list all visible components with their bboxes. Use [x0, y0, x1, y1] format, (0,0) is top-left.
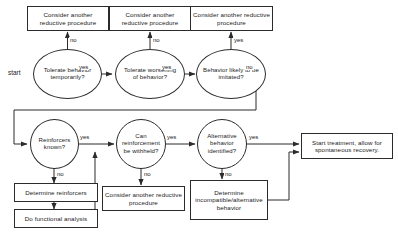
edge-label-imitated-no: no	[245, 64, 254, 70]
node-label: Start treatment, allow for spontaneous r…	[304, 139, 390, 154]
node-consider-another-3: Consider another reductive procedure	[190, 6, 273, 31]
node-consider-another-bottom: Consider another reductive procedure	[102, 186, 185, 211]
node-label: Consider another reductive procedure	[112, 11, 188, 26]
node-reinforcers-known: Reinforcers known?	[30, 119, 79, 169]
edge-label-withhold-no: no	[143, 171, 152, 177]
node-behavior-likely-imitated: Behavior likely to be imitated?	[196, 49, 266, 99]
node-tolerate-behavior-temporarily: Tolerate behavior temporarily?	[33, 49, 102, 99]
node-label: Determine reinforcers	[17, 189, 95, 196]
edge-label-withhold-yes: yes	[166, 134, 177, 140]
edge-label-reinforcers-yes: yes	[79, 134, 90, 140]
node-consider-another-1: Consider another reductive procedure	[27, 6, 109, 31]
node-label: Consider another reductive procedure	[30, 11, 106, 26]
edge-label-alternative-no: no	[224, 171, 233, 177]
node-label: Determine incompatible/alternative behav…	[193, 189, 265, 211]
node-determine-incompatible-alternative-behavior: Determine incompatible/alternative behav…	[190, 180, 268, 220]
node-label: Reinforcers known?	[33, 137, 76, 151]
start-label: start	[8, 70, 20, 76]
node-label: Can reinforcement be withheld?	[118, 133, 164, 154]
node-label: Consider another reductive procedure	[193, 11, 270, 26]
edge-label-worsening-yes: yes	[161, 64, 172, 70]
node-can-reinforcement-be-withheld: Can reinforcement be withheld?	[116, 119, 166, 169]
node-label: Consider another reductive procedure	[105, 191, 182, 206]
node-label: Alternative behavior identified?	[199, 133, 245, 154]
node-tolerate-worsening-of-behavior: Tolerate worsening of behavior?	[115, 49, 185, 99]
node-do-functional-analysis: Do functional analysis	[14, 209, 98, 228]
edge-label-tolerate-no: no	[69, 37, 78, 43]
edge-label-imitated-yes: yes	[233, 37, 244, 43]
node-determine-reinforcers: Determine reinforcers	[14, 183, 98, 202]
node-alternative-behavior-identified: Alternative behavior identified?	[197, 119, 247, 169]
node-consider-another-2: Consider another reductive procedure	[109, 6, 191, 31]
edge-label-reinforcers-no: no	[56, 171, 65, 177]
node-label: Do functional analysis	[17, 215, 95, 222]
edge-label-alternative-yes: yes	[248, 134, 259, 140]
node-start-treatment: Start treatment, allow for spontaneous r…	[301, 133, 393, 159]
edge-label-worsening-no: no	[152, 37, 161, 43]
flowchart-canvas: Consider another reductive procedure Con…	[0, 0, 398, 234]
edge-label-tolerate-yes: yes	[78, 64, 89, 70]
